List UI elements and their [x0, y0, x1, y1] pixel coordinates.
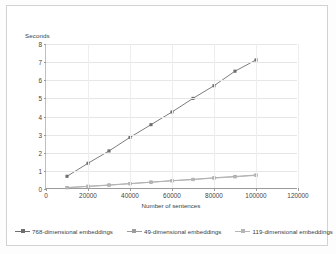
y-axis-title: Seconds: [25, 32, 50, 39]
x-tick-label: 0: [44, 192, 48, 199]
x-gridline: [214, 44, 215, 188]
x-tick-mark: [130, 188, 131, 191]
x-axis-title: Number of sentences: [45, 202, 297, 209]
y-tick-mark: [44, 135, 46, 136]
y-tick-label: 0: [38, 186, 42, 193]
x-tick-mark: [256, 188, 257, 191]
x-tick-mark: [298, 188, 299, 191]
figure-frame: Seconds 01234567802000040000600008000010…: [6, 5, 328, 246]
data-point-marker: [149, 123, 152, 126]
legend-label: 49-dimensional embeddings: [144, 228, 221, 235]
legend-swatch-icon: [127, 228, 142, 235]
legend-label: 119-dimensional embeddings: [252, 228, 332, 235]
legend-entry[interactable]: 119-dimensional embeddings: [235, 228, 332, 235]
x-gridline: [298, 44, 299, 188]
legend-entry[interactable]: 49-dimensional embeddings: [127, 228, 221, 235]
x-gridline: [130, 44, 131, 188]
y-tick-mark: [44, 98, 46, 99]
legend-marker-icon: [132, 229, 136, 233]
x-tick-mark: [172, 188, 173, 191]
x-tick-label: 20000: [79, 192, 97, 199]
plot-area: 0123456780200004000060000800001000001200…: [45, 44, 297, 189]
y-tick-label: 2: [38, 149, 42, 156]
y-tick-label: 7: [38, 59, 42, 66]
legend-marker-icon: [241, 229, 245, 233]
data-point-marker: [107, 184, 110, 187]
y-tick-mark: [44, 80, 46, 81]
legend-swatch-icon: [15, 228, 30, 235]
y-tick-mark: [44, 44, 46, 45]
x-tick-label: 120000: [287, 192, 308, 199]
x-tick-label: 60000: [163, 192, 181, 199]
x-tick-mark: [46, 188, 47, 191]
x-gridline: [172, 44, 173, 188]
x-tick-label: 80000: [205, 192, 223, 199]
data-point-marker: [233, 175, 236, 178]
chart-legend: 768-dimensional embeddings49-dimensional…: [13, 228, 335, 235]
legend-swatch-icon: [235, 228, 250, 235]
legend-entry[interactable]: 768-dimensional embeddings: [15, 228, 113, 235]
chart-figure: Seconds 01234567802000040000600008000010…: [0, 0, 336, 254]
x-tick-label: 40000: [121, 192, 139, 199]
series-line: [67, 175, 256, 187]
data-point-marker: [65, 186, 68, 189]
x-gridline: [88, 44, 89, 188]
data-point-marker: [65, 175, 68, 178]
y-tick-mark: [44, 153, 46, 154]
series-line: [67, 60, 256, 176]
data-point-marker: [191, 178, 194, 181]
y-tick-label: 1: [38, 167, 42, 174]
legend-marker-icon: [21, 229, 25, 233]
y-tick-mark: [44, 117, 46, 118]
y-tick-label: 4: [38, 113, 42, 120]
y-tick-label: 5: [38, 95, 42, 102]
x-tick-mark: [88, 188, 89, 191]
x-tick-mark: [214, 188, 215, 191]
y-tick-label: 3: [38, 131, 42, 138]
y-tick-mark: [44, 62, 46, 63]
x-tick-label: 100000: [245, 192, 266, 199]
data-point-marker: [233, 70, 236, 73]
y-tick-mark: [44, 171, 46, 172]
x-gridline: [256, 44, 257, 188]
y-tick-label: 6: [38, 77, 42, 84]
legend-label: 768-dimensional embeddings: [32, 228, 113, 235]
data-point-marker: [149, 181, 152, 184]
y-tick-label: 8: [38, 41, 42, 48]
